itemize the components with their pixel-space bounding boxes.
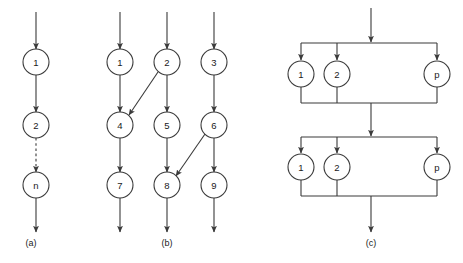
b-node-7: 7 <box>107 172 133 198</box>
b-node-9: 9 <box>201 172 227 198</box>
c-bottom-node-2-label: 2 <box>334 162 339 173</box>
c-top-node-p: p <box>424 61 450 87</box>
a-node-n: n <box>23 172 49 198</box>
b-edge-6-to-8-diagonal <box>176 134 205 176</box>
b-node-9-label: 9 <box>211 180 216 191</box>
b-node-8-label: 8 <box>164 180 169 191</box>
c-bottom-node-p: p <box>424 154 450 180</box>
figure-root: 12n(a)123456789(b)12p12p(c) <box>0 0 463 263</box>
c-block-top: 12p <box>288 43 450 103</box>
c-bottom-node-p-label: p <box>434 162 439 173</box>
panel-label-b: (b) <box>162 238 173 248</box>
b-node-3: 3 <box>201 49 227 75</box>
b-edge-2-to-4-diagonal <box>129 72 158 115</box>
panel-b: 123456789(b) <box>107 12 227 248</box>
a-node-1: 1 <box>23 49 49 75</box>
b-node-6-label: 6 <box>211 120 216 131</box>
b-node-1: 1 <box>107 49 133 75</box>
b-node-8: 8 <box>154 172 180 198</box>
a-node-1-label: 1 <box>33 57 38 68</box>
c-bottom-node-1-label: 1 <box>298 162 303 173</box>
c-bottom-node-2: 2 <box>324 154 350 180</box>
c-top-node-2-label: 2 <box>334 69 339 80</box>
b-node-4: 4 <box>107 112 133 138</box>
panels-layer: 12n(a)123456789(b)12p12p(c) <box>23 8 450 248</box>
b-node-6: 6 <box>201 112 227 138</box>
task-graph-figure: 12n(a)123456789(b)12p12p(c) <box>0 0 463 263</box>
b-node-2-label: 2 <box>164 57 169 68</box>
a-node-2-label: 2 <box>33 120 38 131</box>
panel-c: 12p12p(c) <box>288 8 450 248</box>
c-block-bottom: 12p <box>288 137 450 196</box>
c-top-node-p-label: p <box>434 69 439 80</box>
c-top-node-1-label: 1 <box>298 69 303 80</box>
b-node-5-label: 5 <box>164 120 169 131</box>
b-node-4-label: 4 <box>117 120 122 131</box>
b-node-2: 2 <box>154 49 180 75</box>
a-node-2: 2 <box>23 112 49 138</box>
a-node-n-label: n <box>33 180 38 191</box>
panel-label-c: (c) <box>366 238 377 248</box>
b-node-7-label: 7 <box>117 180 122 191</box>
c-top-node-2: 2 <box>324 61 350 87</box>
c-top-node-1: 1 <box>288 61 314 87</box>
panel-a: 12n(a) <box>23 12 49 248</box>
panel-label-a: (a) <box>26 238 37 248</box>
c-bottom-node-1: 1 <box>288 154 314 180</box>
b-node-1-label: 1 <box>117 57 122 68</box>
b-node-5: 5 <box>154 112 180 138</box>
b-node-3-label: 3 <box>211 57 216 68</box>
